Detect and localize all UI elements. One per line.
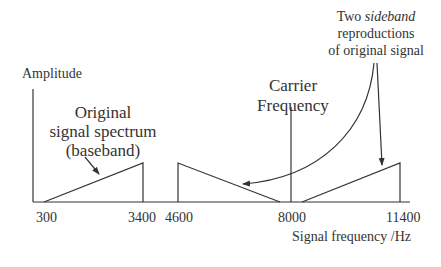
x-tick-300: 300: [36, 211, 57, 225]
x-tick-3400: 3400: [128, 211, 156, 225]
lower-sideband: [178, 163, 280, 202]
x-tick-8000: 8000: [278, 211, 306, 225]
sideband-label-line2: reproductions: [318, 27, 434, 41]
carrier-label: Carrier Frequency: [253, 77, 333, 114]
upper-sideband: [302, 163, 400, 202]
baseband-spectrum: [44, 163, 143, 202]
baseband-label-line1: Original: [48, 104, 158, 121]
y-axis-label: Amplitude: [22, 67, 82, 81]
sideband-label-line1: Two sideband: [318, 10, 434, 24]
sideband-label: Two sideband reproductions of original s…: [318, 10, 434, 58]
sideband-label-line3: of original signal: [318, 44, 434, 58]
x-tick-4600: 4600: [165, 211, 193, 225]
baseband-label: Original signal spectrum (baseband): [48, 104, 158, 159]
sideband-label-italic: sideband: [365, 9, 416, 24]
carrier-label-line1: Carrier: [253, 77, 333, 94]
baseband-label-line2: signal spectrum: [48, 123, 158, 140]
usb-pointer-arrow: [377, 63, 382, 165]
carrier-label-line2: Frequency: [253, 97, 333, 114]
sideband-label-prefix: Two: [337, 9, 365, 24]
x-axis-label: Signal frequency /Hz: [292, 230, 411, 244]
x-tick-11400: 11400: [386, 211, 420, 225]
baseband-label-line3: (baseband): [48, 142, 158, 159]
